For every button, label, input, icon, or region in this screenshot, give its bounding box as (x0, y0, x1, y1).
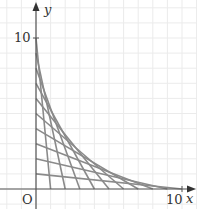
y-axis-arrow-icon (33, 2, 40, 11)
x-tick-label: 10 (166, 192, 183, 207)
y-tick-label: 10 (14, 30, 31, 45)
y-axis-label: y (44, 2, 51, 17)
origin-label: O (22, 192, 33, 207)
x-axis-label: x (186, 191, 193, 206)
